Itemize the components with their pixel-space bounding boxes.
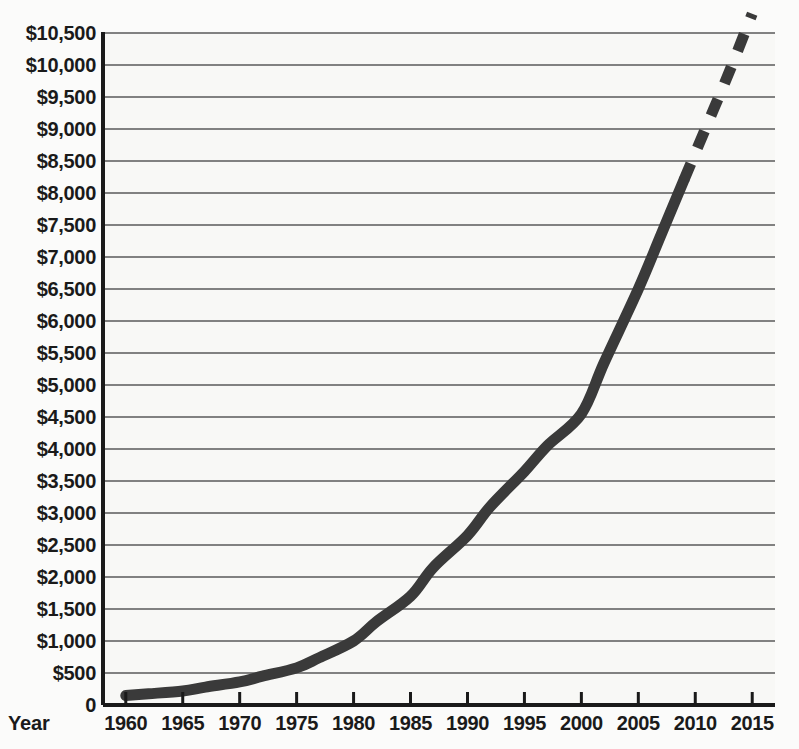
y-tick-label: $6,000 <box>0 311 96 331</box>
x-tick-label: 1990 <box>446 712 489 734</box>
x-axis-tick-labels: 1960196519701975198019851990199520002005… <box>0 712 799 748</box>
y-tick-label: $3,000 <box>0 503 96 523</box>
y-tick-label: $9,500 <box>0 87 96 107</box>
y-tick-label: $8,000 <box>0 183 96 203</box>
y-tick-label: $9,000 <box>0 119 96 139</box>
x-tick-label: 1995 <box>503 712 546 734</box>
y-tick-label: $6,500 <box>0 279 96 299</box>
y-tick-label: $3,500 <box>0 471 96 491</box>
y-tick-label: $500 <box>0 663 96 683</box>
y-tick-label: $7,500 <box>0 215 96 235</box>
y-axis-tick-labels: 0$500$1,000$1,500$2,000$2,500$3,000$3,50… <box>0 0 96 749</box>
y-tick-label: $4,500 <box>0 407 96 427</box>
x-tick-label: 1985 <box>389 712 432 734</box>
y-tick-label: $5,500 <box>0 343 96 363</box>
x-tick-label: 1965 <box>161 712 204 734</box>
y-tick-label: $1,500 <box>0 599 96 619</box>
y-tick-label: $10,500 <box>0 23 96 43</box>
x-tick-label: 1970 <box>218 712 261 734</box>
y-tick-label: $1,000 <box>0 631 96 651</box>
y-tick-label: $7,000 <box>0 247 96 267</box>
y-tick-label: $2,000 <box>0 567 96 587</box>
x-tick-label: 2010 <box>674 712 717 734</box>
x-tick-label: 1980 <box>332 712 375 734</box>
x-tick-label: 2000 <box>560 712 603 734</box>
x-tick-label: 2005 <box>617 712 660 734</box>
x-tick-label: 1960 <box>104 712 147 734</box>
y-tick-label: $4,000 <box>0 439 96 459</box>
axis-lines <box>103 33 775 705</box>
y-tick-label: $8,500 <box>0 151 96 171</box>
x-tick-label: 1975 <box>275 712 318 734</box>
x-tick-label: 2015 <box>731 712 774 734</box>
chart-container: 0$500$1,000$1,500$2,000$2,500$3,000$3,50… <box>0 0 799 749</box>
plot-area <box>103 33 775 705</box>
y-tick-label: $2,500 <box>0 535 96 555</box>
y-tick-label: $5,000 <box>0 375 96 395</box>
y-tick-label: $10,000 <box>0 55 96 75</box>
